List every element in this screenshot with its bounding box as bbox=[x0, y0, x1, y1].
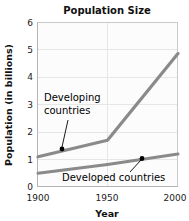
y-tick-2: 2 bbox=[27, 127, 33, 137]
x-tick-2000: 2000 bbox=[164, 193, 187, 203]
x-tick-1900: 1900 bbox=[27, 193, 50, 203]
y-tick-4: 4 bbox=[27, 72, 33, 82]
x-axis-title: Year bbox=[94, 208, 119, 219]
y-tick-0: 0 bbox=[27, 182, 33, 192]
y-tick-5: 5 bbox=[27, 45, 33, 55]
annotation-developing-line2: countries bbox=[44, 105, 90, 116]
y-axis-title: Population (in billions) bbox=[3, 44, 14, 166]
chart-title: Population Size bbox=[63, 5, 151, 16]
population-size-chart: Population Size 6 5 4 3 2 1 0 1900 bbox=[0, 0, 189, 221]
x-tick-1950: 1950 bbox=[96, 193, 119, 203]
y-tick-3: 3 bbox=[27, 100, 33, 110]
annotation-developing-marker-dot bbox=[60, 147, 65, 152]
annotation-developed-marker-dot bbox=[140, 156, 145, 161]
annotation-developing-line1: Developing bbox=[44, 92, 101, 103]
annotation-developed-label: Developed countries bbox=[62, 172, 165, 183]
y-tick-6: 6 bbox=[27, 18, 33, 28]
y-tick-1: 1 bbox=[27, 155, 33, 165]
